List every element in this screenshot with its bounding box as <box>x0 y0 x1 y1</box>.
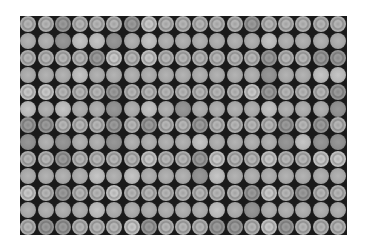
circular-object <box>158 84 174 100</box>
circular-object <box>106 168 122 184</box>
circular-object <box>278 134 294 150</box>
circular-object <box>209 168 225 184</box>
circular-object <box>278 219 294 235</box>
circular-object <box>295 168 311 184</box>
circular-object <box>175 202 191 218</box>
circular-object <box>209 67 225 83</box>
photo-grid-of-circular-objects <box>20 16 347 235</box>
circular-object <box>209 50 225 66</box>
circular-object <box>72 50 88 66</box>
circular-object <box>124 219 140 235</box>
circular-object <box>141 84 157 100</box>
circular-object <box>175 185 191 201</box>
circular-object <box>261 67 277 83</box>
circular-object <box>141 219 157 235</box>
circular-object <box>330 16 346 32</box>
circular-object <box>175 33 191 49</box>
circular-object <box>89 185 105 201</box>
circular-object <box>158 101 174 117</box>
circular-object <box>227 84 243 100</box>
circular-object <box>192 151 208 167</box>
circular-object <box>313 101 329 117</box>
circular-object <box>192 101 208 117</box>
circular-object <box>141 67 157 83</box>
circular-object <box>106 33 122 49</box>
circular-object <box>295 33 311 49</box>
circular-object <box>295 16 311 32</box>
circular-object <box>261 101 277 117</box>
circular-object <box>38 168 54 184</box>
circular-object <box>192 117 208 133</box>
circular-object <box>38 202 54 218</box>
circular-object <box>261 134 277 150</box>
circular-object <box>209 219 225 235</box>
circular-object <box>55 50 71 66</box>
circular-object <box>20 202 36 218</box>
circular-object <box>192 67 208 83</box>
circular-object <box>89 134 105 150</box>
circular-object <box>278 117 294 133</box>
circular-object <box>89 101 105 117</box>
circular-object <box>313 67 329 83</box>
circular-object <box>227 219 243 235</box>
circular-object <box>158 16 174 32</box>
circular-object <box>330 50 346 66</box>
circular-object <box>124 50 140 66</box>
circular-object <box>124 151 140 167</box>
circular-object <box>244 117 260 133</box>
circular-object <box>106 50 122 66</box>
circular-object <box>89 33 105 49</box>
circular-object <box>72 101 88 117</box>
circular-object <box>295 50 311 66</box>
circular-object <box>278 67 294 83</box>
circular-object <box>158 50 174 66</box>
circular-object <box>278 84 294 100</box>
circular-object <box>175 168 191 184</box>
circular-object <box>313 134 329 150</box>
circular-object <box>20 219 36 235</box>
circular-object <box>106 151 122 167</box>
circular-object <box>106 185 122 201</box>
circular-object <box>244 50 260 66</box>
circular-object <box>192 84 208 100</box>
circular-object <box>141 134 157 150</box>
circular-object <box>20 168 36 184</box>
circular-object <box>192 219 208 235</box>
circular-object <box>72 168 88 184</box>
circular-object <box>124 185 140 201</box>
circular-object <box>175 50 191 66</box>
circular-object <box>20 16 36 32</box>
circular-object <box>124 202 140 218</box>
circular-object <box>330 84 346 100</box>
circular-object <box>330 202 346 218</box>
circular-object <box>72 84 88 100</box>
circular-object <box>55 101 71 117</box>
circular-object <box>313 50 329 66</box>
circular-object <box>278 185 294 201</box>
circular-object <box>192 16 208 32</box>
circular-object <box>295 101 311 117</box>
circular-object <box>244 67 260 83</box>
circular-object <box>192 168 208 184</box>
circular-object <box>38 185 54 201</box>
circular-object <box>124 33 140 49</box>
circular-object <box>244 202 260 218</box>
circular-object <box>227 16 243 32</box>
circular-object <box>55 185 71 201</box>
circular-object <box>313 84 329 100</box>
circular-object <box>124 168 140 184</box>
circular-object <box>89 50 105 66</box>
circular-object <box>244 168 260 184</box>
circular-object <box>20 67 36 83</box>
circular-object <box>158 134 174 150</box>
circular-object <box>209 134 225 150</box>
circular-object <box>330 67 346 83</box>
circular-object <box>20 185 36 201</box>
circular-object <box>158 219 174 235</box>
circular-object <box>20 50 36 66</box>
circular-object <box>261 117 277 133</box>
circular-object <box>313 185 329 201</box>
circular-object <box>158 168 174 184</box>
circular-object <box>244 101 260 117</box>
circular-object <box>209 151 225 167</box>
